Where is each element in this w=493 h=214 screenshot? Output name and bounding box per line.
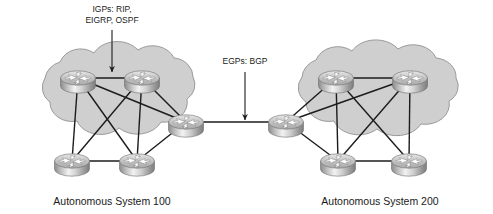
caption-layer: Autonomous System 100Autonomous System 2… bbox=[53, 195, 438, 207]
annotation-label-line2: EIGRP, OSPF bbox=[85, 15, 138, 25]
router-icon[interactable] bbox=[269, 115, 304, 137]
router-icon[interactable] bbox=[392, 154, 427, 176]
annotation-label-line1: EGPs: BGP bbox=[223, 56, 268, 66]
network-diagram: IGPs: RIP,EIGRP, OSPFEGPs: BGP Autonomou… bbox=[0, 0, 493, 214]
cloud-caption-as200: Autonomous System 200 bbox=[321, 195, 438, 207]
topology-canvas: IGPs: RIP,EIGRP, OSPFEGPs: BGP Autonomou… bbox=[0, 0, 493, 214]
router-icon[interactable] bbox=[321, 154, 356, 176]
router-icon[interactable] bbox=[169, 115, 204, 137]
router-icon[interactable] bbox=[120, 154, 155, 176]
router-icon[interactable] bbox=[319, 71, 354, 93]
router-icon[interactable] bbox=[61, 71, 96, 93]
cloud-caption-as100: Autonomous System 100 bbox=[53, 195, 170, 207]
router-icon[interactable] bbox=[125, 71, 160, 93]
annotation-egp: EGPs: BGP bbox=[223, 56, 268, 120]
router-icon[interactable] bbox=[393, 71, 428, 93]
annotation-label-line1: IGPs: RIP, bbox=[92, 4, 131, 14]
router-icon[interactable] bbox=[55, 154, 90, 176]
